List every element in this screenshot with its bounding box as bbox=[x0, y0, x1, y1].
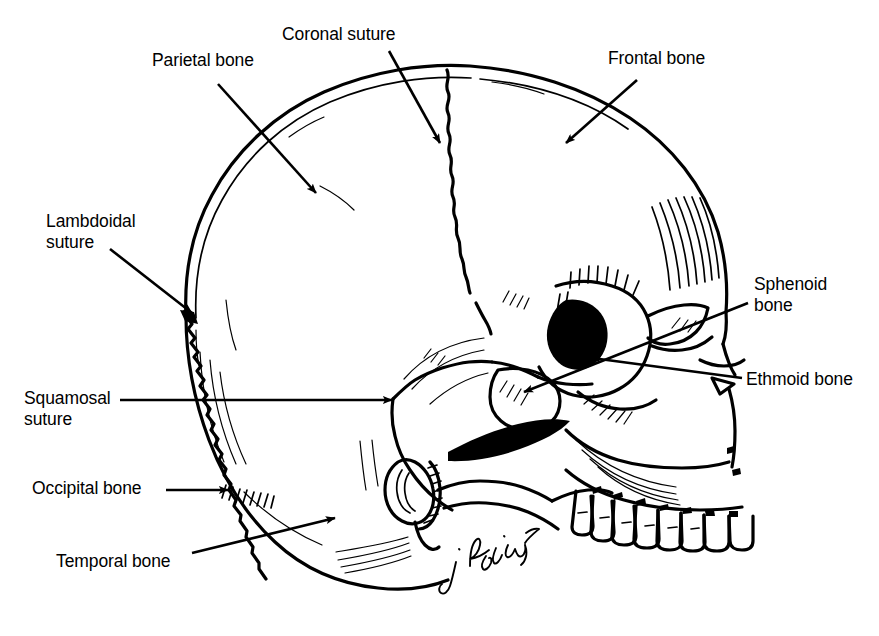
skull-illustration bbox=[0, 0, 879, 636]
leader-ethmoid bbox=[592, 358, 742, 378]
ethmoid-and-nasal-region bbox=[648, 305, 744, 394]
sphenoid-bone-region bbox=[448, 299, 608, 461]
label-parietal-bone: Parietal bone bbox=[152, 50, 254, 71]
label-occipital-bone: Occipital bone bbox=[32, 478, 142, 499]
label-temporal-bone: Temporal bone bbox=[56, 551, 170, 572]
leader-temporal bbox=[192, 518, 335, 553]
label-sphenoid-bone: Sphenoid bone bbox=[754, 274, 827, 316]
temporal-bone-detail bbox=[336, 460, 442, 573]
artist-signature bbox=[439, 529, 539, 594]
skull-diagram-figure: Parietal bone Coronal suture Frontal bon… bbox=[0, 0, 879, 636]
label-squamosal-suture: Squamosal suture bbox=[24, 388, 111, 430]
label-ethmoid-bone: Ethmoid bone bbox=[746, 369, 853, 390]
zygomatic-arch bbox=[438, 481, 612, 529]
label-coronal-suture: Coronal suture bbox=[282, 24, 395, 45]
cranium-outline bbox=[186, 65, 727, 344]
leader-lambdoidal bbox=[110, 249, 192, 313]
maxilla-and-teeth bbox=[566, 389, 753, 551]
label-frontal-bone: Frontal bone bbox=[608, 48, 705, 69]
label-lambdoidal-suture: Lambdoidal suture bbox=[46, 211, 135, 253]
coronal-suture-line bbox=[447, 70, 491, 334]
leader-parietal bbox=[218, 84, 316, 193]
